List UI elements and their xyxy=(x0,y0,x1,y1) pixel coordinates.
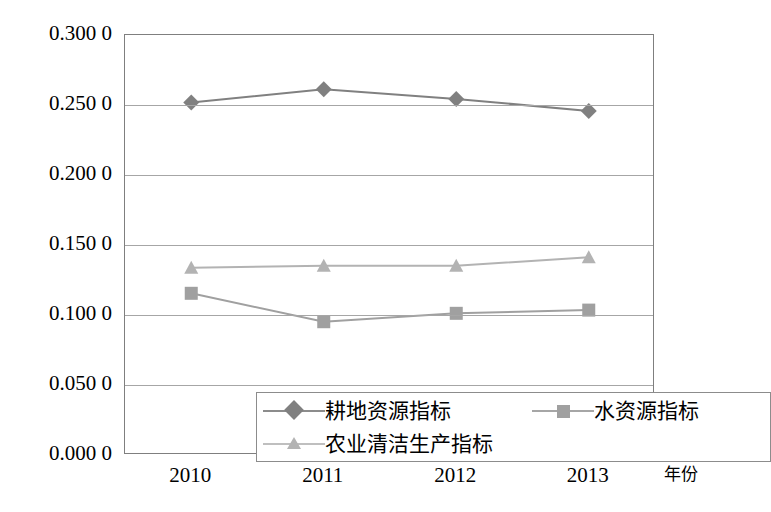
y-axis-tick-label: 0.050 0 xyxy=(2,373,112,394)
data-point-marker xyxy=(317,315,330,328)
legend-item-0[interactable]: 耕地资源指标 xyxy=(263,394,451,428)
x-axis-labels: 2010201120122013 xyxy=(124,462,654,492)
y-axis-tick-label: 0.200 0 xyxy=(2,163,112,184)
y-axis-tick-label: 0.300 0 xyxy=(2,23,112,44)
x-axis-tick-label: 2011 xyxy=(263,462,383,488)
square-marker-icon xyxy=(532,394,594,428)
figure-caption xyxy=(0,496,731,512)
y-axis-tick-label: 0.100 0 xyxy=(2,303,112,324)
x-axis-tick-label: 2010 xyxy=(130,462,250,488)
series-line xyxy=(191,89,589,111)
legend-row-1: 耕地资源指标 水资源指标 xyxy=(257,394,770,428)
data-point-marker xyxy=(316,81,332,97)
y-axis-tick-label: 0.250 0 xyxy=(2,93,112,114)
gridline xyxy=(125,315,653,316)
diamond-marker-icon xyxy=(263,394,325,428)
series-line xyxy=(191,257,589,267)
legend-item-2[interactable]: 农业清洁生产指标 xyxy=(263,427,493,461)
data-point-marker xyxy=(183,94,199,110)
gridline xyxy=(125,175,653,176)
x-axis-tick-label: 2013 xyxy=(528,462,648,488)
plot-area: 耕地资源指标 水资源指标 农业清洁生产指标 xyxy=(124,34,654,454)
gridline xyxy=(125,245,653,246)
triangle-marker-icon xyxy=(263,427,325,461)
y-axis-tick-label: 0.000 0 xyxy=(2,443,112,464)
data-point-marker xyxy=(450,307,463,320)
chart-legend: 耕地资源指标 水资源指标 农业清洁生产指标 xyxy=(256,392,771,462)
legend-label-0: 耕地资源指标 xyxy=(325,399,451,423)
gridline xyxy=(125,105,653,106)
legend-label-2: 农业清洁生产指标 xyxy=(325,432,493,456)
x-axis-title: 年份 xyxy=(664,464,698,486)
legend-item-1[interactable]: 水资源指标 xyxy=(532,394,699,428)
series-line xyxy=(191,293,589,321)
legend-row-2: 农业清洁生产指标 xyxy=(257,427,770,461)
x-axis-tick-label: 2012 xyxy=(395,462,515,488)
gridline xyxy=(125,385,653,386)
data-point-marker xyxy=(185,287,198,300)
y-axis-tick-label: 0.150 0 xyxy=(2,233,112,254)
y-axis-labels: 0.000 00.050 00.100 00.150 00.200 00.250… xyxy=(0,0,112,512)
legend-label-1: 水资源指标 xyxy=(594,399,699,423)
